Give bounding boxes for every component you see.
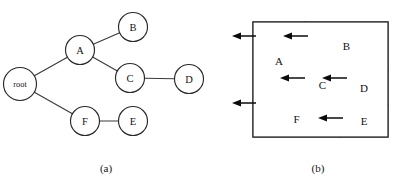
tree-edge-group bbox=[34, 33, 174, 121]
node-label-B: B bbox=[129, 22, 136, 33]
tree-node-root: root bbox=[4, 68, 37, 101]
floorplan-label-F: F bbox=[293, 113, 299, 125]
tree-node-C: C bbox=[116, 64, 145, 93]
floorplan-label-E: E bbox=[361, 115, 368, 127]
tree-edge-A-C bbox=[93, 57, 118, 71]
arrow-head-icon bbox=[232, 99, 241, 106]
node-label-C: C bbox=[126, 73, 133, 84]
tree-node-B: B bbox=[119, 13, 148, 42]
tree-node-E: E bbox=[119, 107, 148, 136]
tree-node-F: F bbox=[71, 107, 100, 136]
floorplan-label-D: D bbox=[360, 82, 368, 94]
node-label-E: E bbox=[130, 116, 136, 127]
tree-edge-root-F bbox=[34, 92, 72, 114]
tree-edge-root-A bbox=[34, 57, 67, 76]
caption-b: (b) bbox=[312, 162, 325, 175]
node-label-A: A bbox=[76, 45, 84, 56]
node-label-D: D bbox=[185, 74, 193, 85]
tree-edge-C-D bbox=[144, 78, 174, 79]
figure-canvas: rootABCDFE ABCDFE (a) (b) bbox=[0, 0, 399, 195]
tree-node-group: rootABCDFE bbox=[4, 13, 204, 136]
tree-node-D: D bbox=[175, 65, 204, 94]
node-label-root: root bbox=[13, 80, 27, 89]
figure-container: rootABCDFE ABCDFE (a) (b) bbox=[0, 0, 399, 195]
tree-edge-A-B bbox=[93, 33, 119, 44]
caption-a: (a) bbox=[100, 162, 113, 175]
slicing-tree-diagram: rootABCDFE bbox=[4, 13, 204, 136]
tree-node-A: A bbox=[66, 36, 95, 65]
floorplan-label-C: C bbox=[319, 79, 326, 91]
slicing-floorplan-diagram: ABCDFE bbox=[232, 22, 388, 137]
node-label-F: F bbox=[82, 116, 88, 127]
floorplan-label-A: A bbox=[275, 55, 283, 67]
floorplan-label-B: B bbox=[343, 40, 350, 52]
arrow-head-icon bbox=[232, 32, 241, 39]
